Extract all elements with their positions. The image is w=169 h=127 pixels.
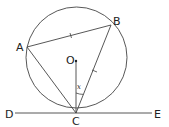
point-label-d: D [5,108,13,121]
angle-arc-x [76,93,83,94]
center-point-o [75,60,77,62]
geometry-diagram: x A B O C D E [0,0,169,127]
chord-bc [76,25,111,113]
chord-ab [27,25,111,47]
angle-label-x: x [77,83,81,91]
point-label-b: B [113,15,121,28]
point-label-a: A [16,41,24,54]
point-label-e: E [154,108,161,121]
diagram-canvas: x A B O C D E [0,0,169,127]
point-label-o: O [66,54,75,67]
point-label-c: C [72,115,80,127]
